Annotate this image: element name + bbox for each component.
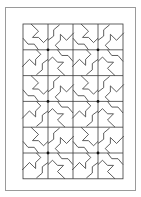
pinwheel-blade (22, 50, 48, 75)
pinwheel-blade (98, 153, 123, 179)
blade-outline (98, 25, 124, 50)
block-center-dot (47, 48, 50, 51)
blade-outline (72, 101, 98, 126)
pinwheel-blade (48, 128, 74, 153)
blade-outline (98, 128, 124, 153)
blade-outline (22, 50, 48, 75)
blade-outline (22, 153, 48, 178)
pinwheel-blade (72, 50, 98, 75)
blade-outline (23, 24, 48, 50)
blade-outline (48, 76, 74, 101)
blade-outline (73, 76, 98, 102)
pinwheel-blade (48, 25, 74, 50)
pinwheel-blade (72, 101, 98, 126)
block-center-dot (47, 100, 50, 103)
blade-outline (98, 153, 123, 179)
pinwheel-blade (98, 76, 124, 101)
pinwheel-blade (73, 24, 98, 50)
pinwheel-blade (98, 101, 123, 127)
pinwheel-blade (22, 101, 48, 126)
pinwheel-blade (23, 76, 48, 102)
blade-outline (48, 101, 73, 127)
pinwheel-blade (23, 127, 48, 153)
pinwheel-blade (48, 50, 73, 76)
pinwheel-blade (98, 128, 124, 153)
blade-outline (48, 153, 73, 179)
blade-outline (23, 127, 48, 153)
block-center-dot (97, 152, 100, 155)
pinwheel-blade (48, 101, 73, 127)
block-center-dot (47, 152, 50, 155)
quilt-pattern (0, 0, 141, 197)
pinwheel-blade (22, 153, 48, 178)
blade-outline (73, 127, 98, 153)
blade-outline (48, 50, 73, 76)
blade-outline (72, 153, 98, 178)
pinwheel-blade (98, 25, 124, 50)
pinwheel-blade (98, 50, 123, 76)
blade-outline (73, 24, 98, 50)
pinwheel-blade (73, 127, 98, 153)
blade-outline (98, 50, 123, 76)
pinwheel-blade (48, 153, 73, 179)
blade-outline (22, 101, 48, 126)
blade-outline (48, 128, 74, 153)
blade-outline (98, 76, 124, 101)
block-center-dot (97, 48, 100, 51)
blade-outline (48, 25, 74, 50)
blade-outline (98, 101, 123, 127)
blade-outline (72, 50, 98, 75)
pinwheel-blade (73, 76, 98, 102)
pinwheel-blade (48, 76, 74, 101)
pinwheel-blade (72, 153, 98, 178)
pinwheel-blade (23, 24, 48, 50)
blade-outline (23, 76, 48, 102)
block-center-dot (97, 100, 100, 103)
